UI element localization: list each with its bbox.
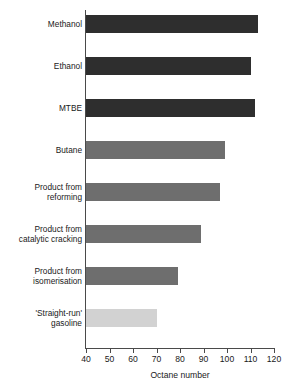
bar-row: 'Straight-run'gasoline — [0, 297, 287, 339]
bar-label-line-1: Butane — [56, 145, 82, 156]
x-axis-tick — [274, 348, 275, 353]
bar-category-label: Ethanol — [0, 45, 82, 87]
plot-area: MethanolEthanolMTBEButaneProduct fromref… — [0, 0, 287, 392]
bar-label-line-2: catalytic cracking — [19, 234, 82, 245]
x-axis-tick — [227, 348, 228, 353]
octane-number-bar-chart: MethanolEthanolMTBEButaneProduct fromref… — [0, 0, 287, 392]
bar-category-label: Butane — [0, 129, 82, 171]
bar-row: Product fromcatalytic cracking — [0, 213, 287, 255]
bar-label-line-1: Product from — [35, 224, 83, 235]
bar-label-line-1: Methanol — [48, 19, 82, 30]
bar-category-label: Product fromcatalytic cracking — [0, 213, 82, 255]
bar-label-line-1: Product from — [35, 266, 83, 277]
bar-label-line-1: Product from — [35, 182, 83, 193]
bar — [86, 15, 258, 33]
bar-label-line-1: Ethanol — [54, 61, 82, 72]
bar-category-label: MTBE — [0, 87, 82, 129]
bar-row: Ethanol — [0, 45, 287, 87]
x-axis-title: Octane number — [86, 370, 274, 380]
bar-label-line-1: MTBE — [59, 103, 82, 114]
x-axis-tick — [204, 348, 205, 353]
bar — [86, 309, 157, 327]
bar — [86, 99, 255, 117]
bar-row: Butane — [0, 129, 287, 171]
bar — [86, 225, 201, 243]
bar-category-label: Methanol — [0, 3, 82, 45]
bar-label-line-2: isomerisation — [33, 276, 82, 287]
bar-row: MTBE — [0, 87, 287, 129]
bar-row: Methanol — [0, 3, 287, 45]
bar-row: Product fromisomerisation — [0, 255, 287, 297]
x-axis-tick — [86, 348, 87, 353]
x-axis-tick — [157, 348, 158, 353]
bar-label-line-1: 'Straight-run' — [35, 308, 82, 319]
bar-label-line-2: reforming — [47, 192, 82, 203]
x-axis-tick — [180, 348, 181, 353]
x-axis-tick — [133, 348, 134, 353]
bar — [86, 141, 225, 159]
x-axis-tick-label: 120 — [259, 354, 287, 364]
bar-label-line-2: gasoline — [51, 318, 82, 329]
bar-category-label: Product fromisomerisation — [0, 255, 82, 297]
x-axis-tick — [251, 348, 252, 353]
bar — [86, 57, 251, 75]
bar-category-label: Product fromreforming — [0, 171, 82, 213]
bar-row: Product fromreforming — [0, 171, 287, 213]
x-axis-tick — [110, 348, 111, 353]
bar — [86, 183, 220, 201]
bar — [86, 267, 178, 285]
bar-category-label: 'Straight-run'gasoline — [0, 297, 82, 339]
